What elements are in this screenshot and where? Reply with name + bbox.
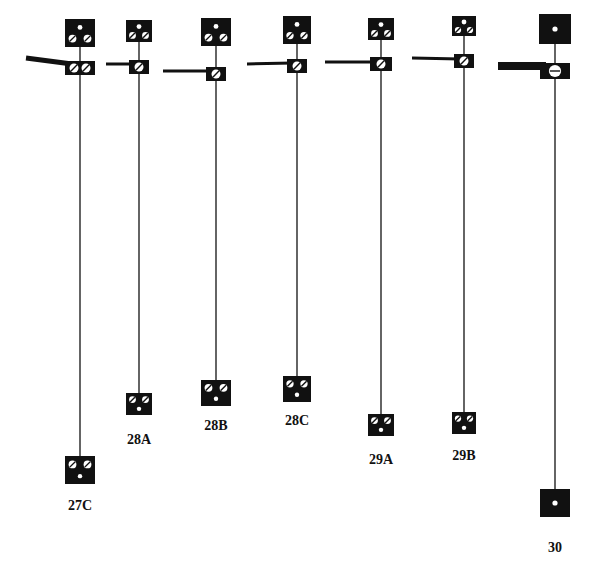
top-plug [368,18,394,40]
electrode-27c [26,19,95,484]
electrode-30 [498,14,571,517]
diagram-svg [0,0,598,563]
top-plug [126,20,152,42]
bottom-socket [126,393,152,415]
bottom-socket [283,376,311,402]
top-plug [201,18,231,46]
bottom-socket [201,380,231,406]
electrode-label: 28A [127,432,151,448]
electrode-label: 28B [204,418,227,434]
electrode-28c [247,16,311,402]
lever-arm [247,63,293,64]
top-plug [539,14,571,44]
bottom-socket [452,412,476,434]
electrode-29b [412,16,476,434]
electrode-label: 29B [452,448,475,464]
mid-connector [65,61,95,75]
top-plug [452,16,476,36]
mid-connector [540,63,570,79]
electrode-label: 28C [285,413,309,429]
mid-connector [370,57,392,71]
electrode-diagram [0,0,598,563]
bottom-socket [65,456,95,484]
electrode-29a [325,18,394,436]
electrode-28a [106,20,152,415]
electrode-label: 30 [548,540,562,556]
electrode-28b [163,18,231,406]
bottom-socket [368,414,394,436]
mid-connector [454,54,474,68]
bottom-socket [540,489,570,517]
lever-arm [412,58,460,59]
mid-connector [287,59,307,73]
mid-connector [129,60,149,74]
electrode-label: 27C [68,498,92,514]
top-plug [65,19,95,47]
electrode-label: 29A [369,452,393,468]
top-plug [283,16,311,44]
mid-connector [206,67,226,81]
